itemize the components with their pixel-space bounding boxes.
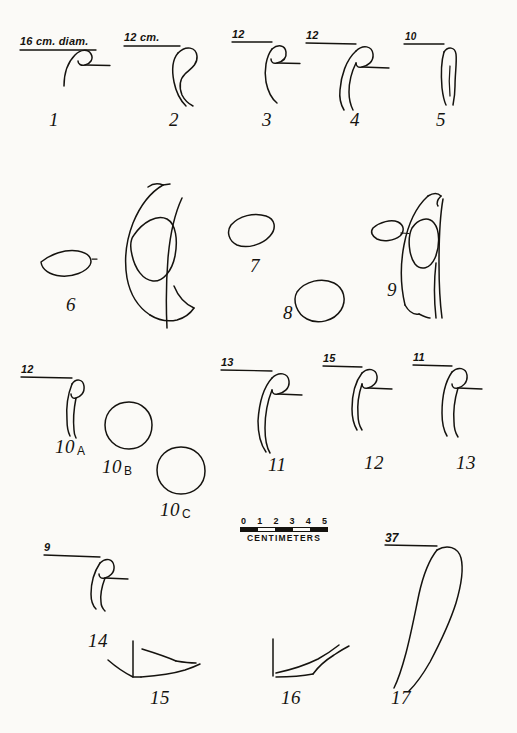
fig-10a-dimension-label: 12 <box>21 364 34 375</box>
fig-16-drawing <box>273 639 349 677</box>
fig-2-number: 2 <box>169 110 179 129</box>
scale-bar-ticks: 0 1 2 3 4 5 <box>240 517 328 526</box>
fig-5-drawing <box>404 44 456 105</box>
fig-5-dimension-label: 10 <box>405 32 417 42</box>
fig-7-drawing <box>229 214 275 246</box>
fig-10b-number-sub: B <box>122 464 132 478</box>
scale-bar-caption: CENTIMETERS <box>240 533 328 543</box>
fig-2-dimension-label: 12 cm. <box>124 32 159 43</box>
fig-10a-number: 10A <box>55 437 85 456</box>
fig-11-dimension-label: 13 <box>221 357 234 368</box>
scale-tick-0: 0 <box>241 517 246 526</box>
fig-3-drawing <box>232 42 300 103</box>
fig-16-number: 16 <box>281 688 301 707</box>
fig-10b-number-text: 10 <box>102 456 122 477</box>
fig-14-drawing <box>44 555 128 611</box>
fig-1-number: 1 <box>49 110 59 129</box>
fig-12-dimension-label: 15 <box>323 353 336 364</box>
fig-4-drawing <box>306 43 389 110</box>
scale-tick-1: 1 <box>257 517 262 526</box>
fig-11-number: 11 <box>268 455 287 474</box>
fig-12-drawing <box>323 366 392 430</box>
fig-13-drawing <box>413 365 482 437</box>
fig-8-drawing <box>295 280 344 322</box>
fig-10c-number: 10C <box>160 500 191 519</box>
fig-1-dimension-label: 16 cm. diam. <box>20 36 88 47</box>
fig-14-dimension-label: 9 <box>44 542 50 553</box>
fig-17-number: 17 <box>391 688 411 707</box>
scale-tick-5: 5 <box>322 517 327 526</box>
fig-10c-drawing <box>157 447 205 494</box>
fig-6-drawing <box>41 184 194 328</box>
fig-13-number: 13 <box>456 453 476 472</box>
fig-4-number: 4 <box>350 110 360 129</box>
fig-3-dimension-label: 12 <box>232 29 245 40</box>
scale-bar-segments <box>240 527 328 532</box>
scale-segment-3 <box>293 528 310 531</box>
fig-10a-number-sub: A <box>75 444 85 458</box>
scale-segment-0 <box>241 528 258 531</box>
fig-1-drawing <box>20 50 110 86</box>
fig-12-number: 12 <box>364 453 384 472</box>
fig-15-number: 15 <box>150 688 170 707</box>
fig-8-number: 8 <box>283 303 293 322</box>
scale-segment-1 <box>258 528 275 531</box>
scale-segment-4 <box>310 528 327 531</box>
fig-2-drawing <box>124 46 197 106</box>
fig-13-dimension-label: 11 <box>413 352 425 363</box>
fig-6-number: 6 <box>66 295 76 314</box>
fig-10a-drawing <box>21 377 84 438</box>
fig-11-drawing <box>221 370 302 453</box>
fig-9-drawing <box>372 194 443 318</box>
fig-10b-number: 10B <box>102 457 132 476</box>
fig-10b-drawing <box>105 402 152 449</box>
scale-bar: 0 1 2 3 4 5 CENTIMETERS <box>240 517 328 543</box>
fig-4-dimension-label: 12 <box>306 30 319 41</box>
scale-segment-2 <box>275 528 292 531</box>
fig-17-dimension-label: 37 <box>385 532 399 544</box>
fig-7-number: 7 <box>250 256 260 275</box>
fig-10c-number-sub: C <box>180 507 191 521</box>
fig-3-number: 3 <box>262 110 272 129</box>
scale-tick-2: 2 <box>273 517 278 526</box>
fig-17-drawing <box>385 545 462 691</box>
scale-tick-3: 3 <box>290 517 295 526</box>
fig-14-number: 14 <box>88 631 108 650</box>
fig-5-number: 5 <box>436 110 446 129</box>
fig-10a-number-text: 10 <box>55 436 75 457</box>
fig-10c-number-text: 10 <box>160 499 180 520</box>
scale-tick-4: 4 <box>306 517 311 526</box>
fig-15-drawing <box>108 641 200 677</box>
illustration-plate: 16 cm. diam. 12 cm. 12 12 10 12 13 15 11… <box>0 0 517 733</box>
fig-9-number: 9 <box>387 280 397 299</box>
